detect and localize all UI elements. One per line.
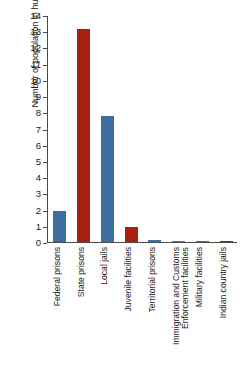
x-category-label: Immigration and CustomsEnforcement facil… <box>172 247 191 345</box>
y-tick-label: 7 <box>36 125 41 135</box>
y-tick-mark <box>43 97 47 98</box>
x-category-label: Territorial prisons <box>148 247 157 312</box>
y-tick-mark <box>43 113 47 114</box>
y-tick-mark <box>43 243 47 244</box>
y-tick-mark <box>43 162 47 163</box>
plot-area: 01234567891011121314 <box>47 16 237 243</box>
bar <box>172 241 185 242</box>
x-category-label-line: Federal prisons <box>53 247 62 306</box>
y-tick-label: 1 <box>36 222 41 232</box>
y-tick-mark <box>43 211 47 212</box>
x-category-label: Federal prisons <box>53 247 62 306</box>
x-category-label: State prisons <box>77 247 86 297</box>
y-tick-label: 12 <box>30 44 41 54</box>
y-tick-mark <box>43 81 47 82</box>
y-tick-label: 9 <box>36 92 41 102</box>
y-tick-mark <box>43 227 47 228</box>
y-tick-label: 5 <box>36 157 41 167</box>
bar <box>196 241 209 242</box>
y-tick-mark <box>43 32 47 33</box>
y-tick-mark <box>43 146 47 147</box>
y-tick-label: 4 <box>36 173 41 183</box>
y-tick-label: 6 <box>36 141 41 151</box>
x-category-label-line: State prisons <box>77 247 86 297</box>
y-tick-label: 3 <box>36 190 41 200</box>
x-category-label-line: Indian country jails <box>219 247 228 318</box>
x-category-label-line: Enforcement facilities <box>181 247 190 345</box>
y-tick-mark <box>43 130 47 131</box>
x-category-label-line: Military facilities <box>195 247 204 307</box>
x-category-label: Indian country jails <box>219 247 228 318</box>
x-category-label-line: Juvenile facilities <box>124 247 133 311</box>
bar <box>101 116 114 242</box>
bar <box>53 211 66 242</box>
x-category-label: Local jails <box>100 247 109 285</box>
y-tick-mark <box>43 16 47 17</box>
bar-series <box>48 16 237 242</box>
bar <box>148 240 161 242</box>
y-tick-label: 11 <box>31 60 41 70</box>
y-tick-mark <box>43 194 47 195</box>
y-tick-mark <box>43 178 47 179</box>
y-tick-mark <box>43 65 47 66</box>
y-axis-title-wrap: Number of population in hundreds of thou… <box>0 0 20 250</box>
x-axis-line <box>47 242 237 243</box>
y-tick-label: 2 <box>36 206 41 216</box>
x-category-label: Juvenile facilities <box>124 247 133 311</box>
y-tick-label: 0 <box>36 238 41 248</box>
bar <box>220 241 233 242</box>
x-category-label-line: Territorial prisons <box>148 247 157 312</box>
bar <box>125 227 138 242</box>
y-tick-mark <box>43 48 47 49</box>
x-axis-category-labels: Federal prisonsState prisonsLocal jailsJ… <box>47 247 237 384</box>
y-tick-label: 13 <box>30 27 41 37</box>
y-tick-label: 10 <box>30 76 41 86</box>
bar-chart: Number of population in hundreds of thou… <box>0 0 242 384</box>
x-category-label-line: Local jails <box>100 247 109 285</box>
x-category-label-line: Immigration and Customs <box>172 247 181 345</box>
y-tick-label: 14 <box>30 11 41 21</box>
bar <box>77 29 90 242</box>
x-category-label: Military facilities <box>195 247 204 307</box>
y-tick-label: 8 <box>36 108 41 118</box>
